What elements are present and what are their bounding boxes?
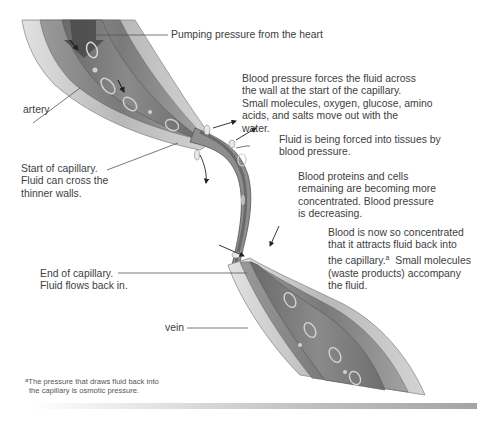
label-end-of-capillary: End of capillary. Fluid flows back in. xyxy=(40,268,128,293)
label-proteins-concentrated: Blood proteins and cells remaining are b… xyxy=(298,171,436,221)
label-pumping-pressure: Pumping pressure from the heart xyxy=(171,29,323,41)
label-blood-pressure-forces: Blood pressure forces the fluid across t… xyxy=(242,73,433,135)
footnote: aThe pressure that draws fluid back into… xyxy=(25,377,159,396)
capillary-diagram: Pumping pressure from the heart artery B… xyxy=(0,0,492,425)
footnote-marker-a: a xyxy=(25,377,28,383)
label-artery: artery xyxy=(23,104,50,116)
capillary-vessel xyxy=(190,121,279,265)
decorative-gradient-bar xyxy=(30,403,477,409)
label-start-of-capillary: Start of capillary. Fluid can cross the … xyxy=(21,163,108,200)
label-vein: vein xyxy=(165,322,184,334)
label-concentrated-attracts: Blood is now so concentrated that it att… xyxy=(328,227,471,293)
label-fluid-forced: Fluid is being forced into tissues by bl… xyxy=(279,134,441,159)
